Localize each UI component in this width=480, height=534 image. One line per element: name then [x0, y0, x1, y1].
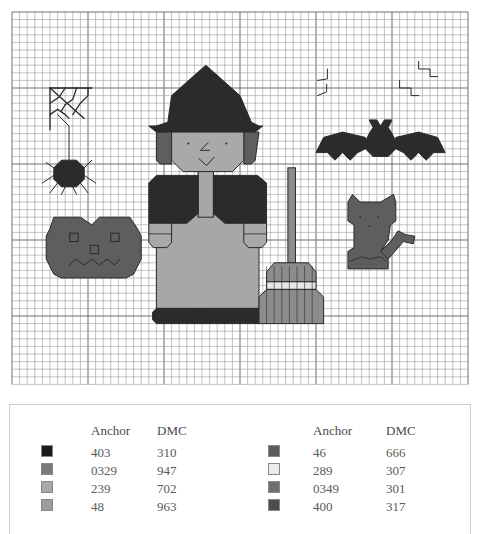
witch-shoe-gap — [198, 308, 206, 323]
cat-eye-left — [359, 216, 361, 218]
squiggle — [419, 61, 438, 76]
anchor-code: 289 — [313, 463, 333, 479]
broom-bristles — [259, 289, 324, 323]
color-swatch — [268, 445, 280, 457]
anchor-code: 48 — [91, 499, 104, 515]
color-swatch — [41, 499, 53, 511]
pumpkin-nose — [90, 245, 98, 253]
witch-hair-left — [156, 132, 171, 164]
witch-hand-right — [244, 223, 267, 247]
witch-cape-left — [149, 175, 198, 223]
witch-hand-left — [149, 223, 172, 247]
anchor-code: 0329 — [91, 463, 117, 479]
color-swatch — [41, 445, 53, 457]
witch-eye-left — [187, 142, 189, 144]
cat-motif — [348, 194, 415, 268]
cat-nose — [368, 226, 370, 228]
color-swatch — [268, 463, 280, 475]
witch-cape-right — [213, 175, 266, 223]
dmc-code: 310 — [157, 445, 177, 461]
pumpkin-motif — [46, 217, 141, 278]
anchor-code: 400 — [313, 499, 333, 515]
color-swatch — [268, 481, 280, 493]
dmc-code: 702 — [157, 481, 177, 497]
broom-handle — [288, 168, 296, 263]
spider-leg — [80, 183, 88, 193]
dmc-code: 307 — [386, 463, 406, 479]
bat-body — [365, 120, 395, 156]
thread-legend: Anchor DMC 403 310 0329 947 239 702 48 9… — [9, 404, 471, 534]
dmc-header: DMC — [157, 423, 187, 439]
color-swatch — [268, 499, 280, 511]
web-thread — [61, 105, 65, 111]
pumpkin-eye-left — [70, 233, 78, 241]
bat-squiggles-motif — [318, 61, 438, 95]
spider-web-motif — [50, 88, 92, 130]
witch-shoe-left — [153, 308, 199, 323]
color-swatch — [41, 463, 53, 475]
witch-motif — [149, 65, 267, 323]
witch-hair-right — [244, 132, 259, 164]
dmc-code: 947 — [157, 463, 177, 479]
dmc-code: 301 — [386, 481, 406, 497]
dmc-code: 317 — [386, 499, 406, 515]
anchor-header: Anchor — [313, 423, 352, 439]
motifs — [42, 61, 445, 323]
anchor-code: 0349 — [313, 481, 339, 497]
spider-body — [54, 160, 84, 187]
witch-hat-brim — [149, 126, 263, 132]
anchor-header: Anchor — [91, 423, 130, 439]
witch-shoe-right — [206, 308, 263, 323]
spider-leg — [73, 187, 77, 195]
dmc-header: DMC — [386, 423, 416, 439]
anchor-code: 46 — [313, 445, 326, 461]
spider-leg — [61, 187, 65, 195]
squiggle — [318, 69, 328, 80]
cross-stitch-chart — [0, 0, 480, 400]
color-swatch — [41, 481, 53, 493]
squiggle — [318, 84, 327, 95]
pumpkin-eye-right — [111, 233, 119, 241]
anchor-code: 239 — [91, 481, 111, 497]
witch-eye-right — [225, 142, 227, 144]
witch-face — [172, 132, 244, 172]
anchor-code: 403 — [91, 445, 111, 461]
spider-thread — [58, 115, 69, 161]
broom-motif — [259, 168, 324, 324]
dmc-code: 963 — [157, 499, 177, 515]
dmc-code: 666 — [386, 445, 406, 461]
spider-leg — [50, 183, 58, 193]
witch-dress-front — [198, 172, 213, 218]
cat-eye-right — [377, 216, 379, 218]
